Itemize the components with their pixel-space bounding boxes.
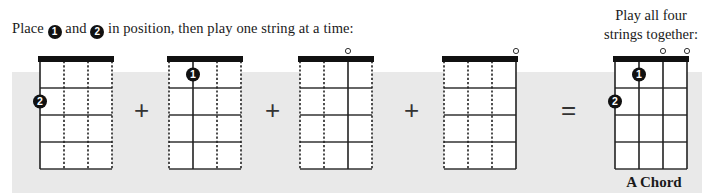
chord-name-label: A Chord [616,174,692,191]
play-together-line1: Play all four [600,6,702,25]
nut-bar [298,56,374,62]
equals-sign: = [561,100,576,120]
svg-text:1: 1 [636,68,642,80]
chord-diagram-step-2: 1 [167,48,247,170]
svg-text:1: 1 [190,68,196,80]
open-string-icon [345,48,350,53]
finger-2-badge: 2 [90,25,104,39]
finger-1-badge: 1 [48,25,62,39]
nut-bar [442,56,518,62]
chord-diagram-step-3 [298,48,378,170]
instruction-suffix: in position, then play one string at a t… [104,20,353,36]
chord-diagram-step-1: 2 [38,48,118,170]
finger-1-marker: 1 [186,68,200,82]
play-together-line2: strings together: [600,25,702,44]
svg-text:2: 2 [612,95,618,107]
open-string-icon [513,48,518,53]
finger-2-marker: 2 [608,95,622,109]
plus-sign: + [404,100,419,120]
finger-1-marker: 1 [632,68,646,82]
nut-bar [38,56,114,62]
chord-diagram-step-4 [442,48,522,170]
plus-sign: + [265,100,280,120]
finger-2-marker: 2 [33,95,47,109]
play-together-title: Play all four strings together: [600,6,702,44]
instruction-and: and [62,20,91,36]
instruction-text: Place 1 and 2 in position, then play one… [12,20,354,39]
svg-text:2: 2 [37,95,43,107]
instruction-prefix: Place [12,20,48,36]
nut-bar [613,56,689,62]
nut-bar [167,56,243,62]
chord-diagram-a-chord: 12 [613,48,693,170]
open-string-icon [660,48,665,53]
open-string-icon [684,48,689,53]
plus-sign: + [134,100,149,120]
